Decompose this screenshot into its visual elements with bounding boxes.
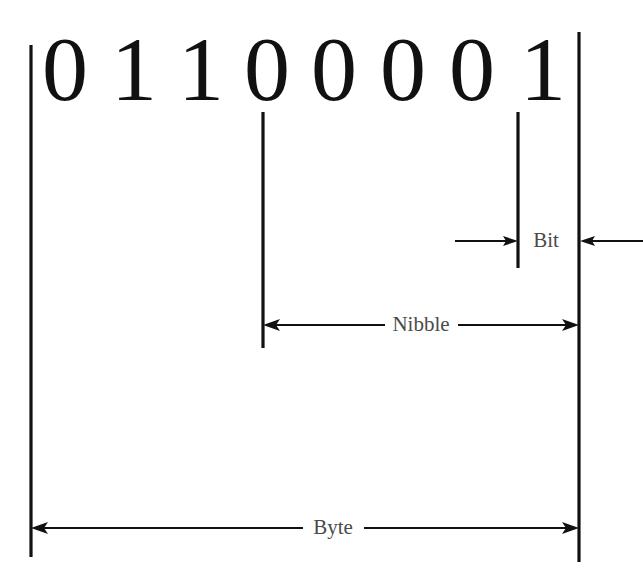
binary-digit-6: 0 <box>449 18 495 120</box>
binary-digit-0: 0 <box>42 18 88 120</box>
binary-digit-5: 0 <box>380 18 426 120</box>
bit-label: Bit <box>533 228 559 252</box>
binary-digit-2: 1 <box>178 18 224 120</box>
byte-label: Byte <box>313 515 353 539</box>
binary-byte-diagram: 0 1 1 0 0 0 0 1 Bit Nibble <box>0 0 643 579</box>
binary-digit-4: 0 <box>311 18 357 120</box>
binary-digit-1: 1 <box>111 18 157 120</box>
nibble-dimension: Nibble <box>263 312 579 336</box>
diagram-canvas: 0 1 1 0 0 0 0 1 Bit Nibble <box>0 0 643 579</box>
nibble-label: Nibble <box>392 312 449 336</box>
binary-digit-3: 0 <box>244 18 290 120</box>
binary-digits: 0 1 1 0 0 0 0 1 <box>42 18 566 120</box>
byte-dimension: Byte <box>31 515 579 539</box>
binary-digit-7: 1 <box>520 18 566 120</box>
bit-dimension: Bit <box>455 228 643 252</box>
